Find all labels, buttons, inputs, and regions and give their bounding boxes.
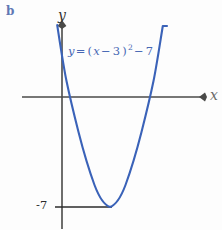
equation-minus-second: − — [133, 44, 145, 58]
y-tick-label: -7 — [36, 200, 47, 212]
coordinate-plane — [0, 0, 222, 230]
y-axis-label: y — [58, 8, 66, 22]
equation-minus-first: − — [100, 44, 112, 58]
equation-variable: x — [93, 44, 100, 58]
x-axis-label: x — [210, 88, 218, 102]
graph-figure: b y x -7 y=(x−3)2−7 — [0, 0, 222, 230]
equation-close-paren: ) — [121, 44, 128, 58]
equation-label: y=(x−3)2−7 — [68, 46, 154, 58]
equation-h-value: 3 — [112, 44, 122, 58]
part-label: b — [6, 5, 14, 17]
equation-lhs: y — [68, 44, 75, 58]
x-axis-arrowhead — [199, 92, 207, 101]
equation-k-value: 7 — [145, 44, 155, 58]
equation-equals: = — [75, 44, 87, 58]
